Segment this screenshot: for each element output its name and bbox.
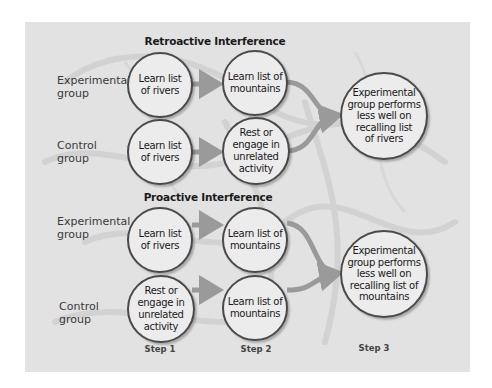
pro-experimental-step1-node: Learn list of rivers xyxy=(127,207,193,273)
retro-experimental-step2-node: Learn list of mountains xyxy=(222,50,288,116)
retroactive-title: Retroactive Interference xyxy=(145,35,286,47)
pro-control-step2-node: Learn list of mountains xyxy=(222,275,288,341)
step-1-label: Step 1 xyxy=(145,344,176,354)
step-3-label: Step 3 xyxy=(359,343,390,353)
retro-result-node: Experimental group performs less well on… xyxy=(340,72,428,160)
retro-experimental-step1-node: Learn list of rivers xyxy=(127,52,193,118)
proactive-title: Proactive Interference xyxy=(144,191,273,203)
step-2-label: Step 2 xyxy=(241,344,272,354)
pro-control-step1-node: Rest or engage in unrelated activity xyxy=(127,275,195,343)
retro-control-step2-node: Rest or engage in unrelated activity xyxy=(222,117,290,185)
pro-experimental-step2-node: Learn list of mountains xyxy=(222,207,288,273)
retro-experimental-label: Experimental group xyxy=(57,74,130,100)
pro-result-node: Experimental group performs less well on… xyxy=(340,230,428,318)
pro-control-label: Control group xyxy=(59,300,99,326)
retro-control-label: Control group xyxy=(57,139,97,165)
pro-experimental-label: Experimental group xyxy=(57,215,130,241)
retro-control-step1-node: Learn list of rivers xyxy=(127,119,193,185)
